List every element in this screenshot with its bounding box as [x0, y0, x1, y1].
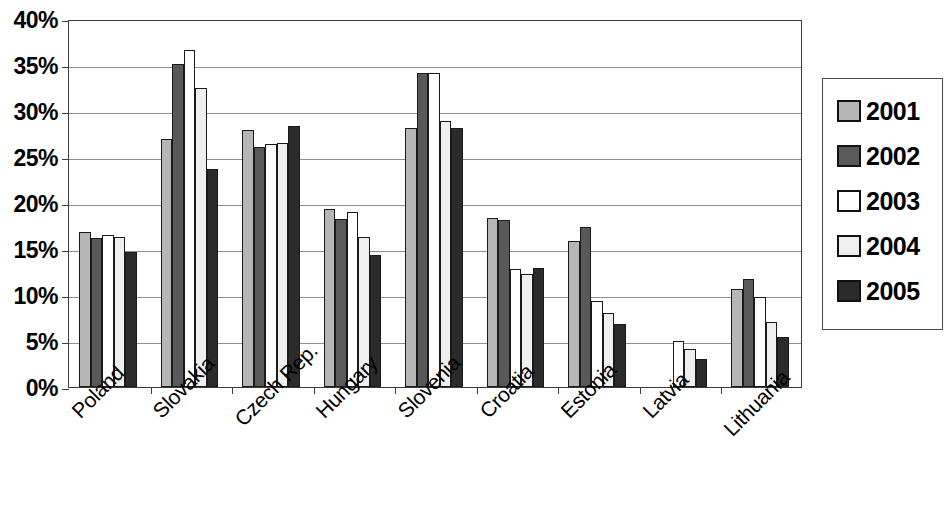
bar	[428, 73, 440, 387]
bar	[172, 64, 184, 387]
legend-item[interactable]: 2005	[837, 276, 920, 306]
legend-swatch-icon	[837, 280, 861, 302]
y-axis-tick	[62, 343, 69, 344]
bar-group	[731, 21, 789, 387]
bar	[335, 219, 347, 387]
y-axis-tick-label: 30%	[13, 101, 58, 124]
bar	[184, 50, 196, 387]
bar-group	[242, 21, 300, 387]
bar	[91, 238, 103, 387]
legend-label: 2001	[866, 99, 920, 124]
bar	[487, 218, 499, 387]
bar-group	[161, 21, 219, 387]
bar-group	[79, 21, 137, 387]
y-axis-tick	[62, 297, 69, 298]
y-axis-tick	[62, 159, 69, 160]
y-axis-tick-label: 10%	[13, 285, 58, 308]
bar	[405, 128, 417, 387]
bar	[696, 359, 708, 387]
y-axis-tick	[62, 251, 69, 252]
legend-label: 2004	[866, 234, 920, 259]
legend-label: 2003	[866, 189, 920, 214]
x-axis-labels: PolandSlovakiaCzech Rep.HungarySloveniaC…	[0, 388, 949, 506]
legend-item[interactable]: 2001	[837, 96, 920, 126]
legend-swatch-icon	[837, 145, 861, 167]
bar-group	[568, 21, 626, 387]
bar	[417, 73, 429, 387]
bar	[207, 169, 219, 387]
bar	[195, 88, 207, 387]
bar	[451, 128, 463, 387]
y-axis-tick-label: 20%	[13, 193, 58, 216]
bar	[161, 139, 173, 387]
bar	[743, 279, 755, 387]
legend-swatch-icon	[837, 235, 861, 257]
legend-item[interactable]: 2004	[837, 231, 920, 261]
bar	[754, 297, 766, 387]
y-axis-tick	[62, 205, 69, 206]
chart-legend: 20012002200320042005	[822, 78, 943, 330]
legend-swatch-icon	[837, 190, 861, 212]
bar	[79, 232, 91, 387]
bar	[731, 289, 743, 387]
bar	[440, 121, 452, 387]
legend-label: 2002	[866, 144, 920, 169]
bar	[265, 144, 277, 387]
bar-group	[487, 21, 545, 387]
legend-swatch-icon	[837, 100, 861, 122]
y-axis-tick	[62, 113, 69, 114]
y-axis-tick-label: 5%	[26, 331, 58, 354]
legend-item[interactable]: 2002	[837, 141, 920, 171]
bar	[498, 220, 510, 387]
plot-area	[68, 20, 802, 388]
bar	[580, 227, 592, 387]
bar	[254, 147, 266, 387]
bar-group	[405, 21, 463, 387]
y-axis-tick-label: 35%	[13, 55, 58, 78]
bar-group	[650, 21, 708, 387]
legend-label: 2005	[866, 279, 920, 304]
bar	[277, 143, 289, 387]
y-axis-tick-label: 25%	[13, 147, 58, 170]
bar-group	[324, 21, 382, 387]
bar	[125, 252, 137, 387]
bar	[242, 130, 254, 387]
y-axis-tick-label: 15%	[13, 239, 58, 262]
bar-chart: 0%5%10%15%20%25%30%35%40% PolandSlovakia…	[0, 0, 949, 506]
bar	[324, 209, 336, 387]
bar	[533, 268, 545, 387]
y-axis-tick-label: 40%	[13, 9, 58, 32]
y-axis-tick	[62, 21, 69, 22]
y-axis-tick	[62, 67, 69, 68]
legend-item[interactable]: 2003	[837, 186, 920, 216]
bar	[568, 241, 580, 387]
